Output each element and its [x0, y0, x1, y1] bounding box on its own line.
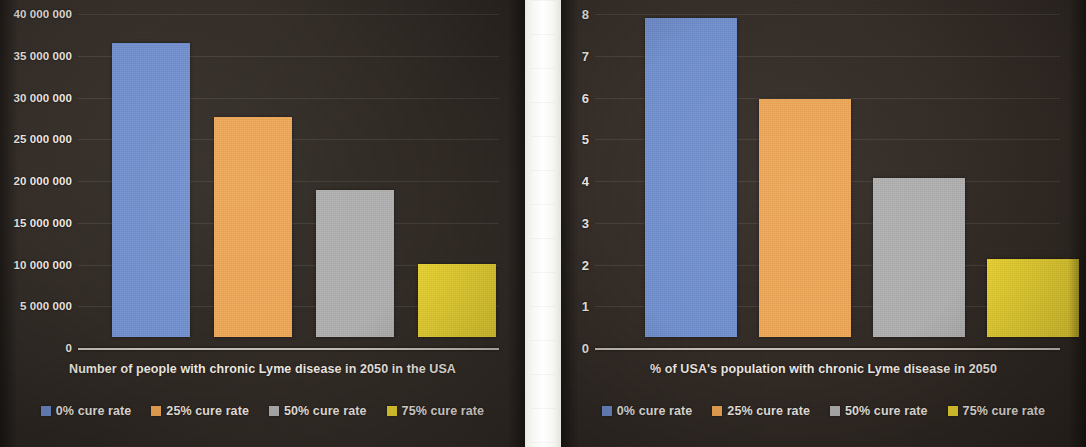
scanned-page: 05 000 00010 000 00015 000 00020 000 000…: [0, 0, 1086, 447]
bar-texture: [873, 178, 965, 337]
y-axis-tick-label: 0: [66, 342, 73, 354]
legend-item: 75% cure rate: [948, 404, 1046, 418]
y-axis-tick-label: 20 000 000: [13, 175, 72, 187]
bar-texture: [418, 264, 496, 337]
y-axis-tick-label: 35 000 000: [13, 50, 72, 62]
bar-group-percent: [595, 0, 1060, 351]
bar-group-people: [78, 0, 499, 351]
bar-texture: [316, 190, 394, 337]
y-axis-tick-label: 10 000 000: [13, 259, 72, 271]
y-axis-tick-label: 30 000 000: [13, 92, 72, 104]
legend-item: 25% cure rate: [712, 404, 810, 418]
y-axis-tick-label: 0: [582, 341, 589, 356]
bar-texture: [759, 99, 851, 337]
y-axis-labels-percent: 012345678: [561, 0, 589, 351]
legend-label: 0% cure rate: [617, 404, 693, 418]
y-axis-tick-label: 40 000 000: [13, 8, 72, 20]
y-axis-tick-label: 2: [582, 257, 589, 272]
plot-area-people: 05 000 00010 000 00015 000 00020 000 000…: [0, 0, 525, 351]
legend-label: 50% cure rate: [284, 404, 367, 418]
legend-item: 50% cure rate: [830, 404, 928, 418]
chart-panel-percent: 012345678 % of USA's population with chr…: [561, 0, 1086, 447]
legend-item: 0% cure rate: [602, 404, 693, 418]
legend-item: 75% cure rate: [387, 404, 485, 418]
plot-area-percent: 012345678: [561, 0, 1086, 351]
bar-25-cure-rate: [759, 99, 851, 337]
chart-caption-people: Number of people with chronic Lyme disea…: [0, 362, 525, 376]
legend-label: 0% cure rate: [56, 404, 132, 418]
legend-item: 50% cure rate: [269, 404, 367, 418]
legend-people: 0% cure rate25% cure rate50% cure rate75…: [0, 404, 525, 418]
y-axis-labels-people: 05 000 00010 000 00015 000 00020 000 000…: [0, 0, 72, 351]
bar-texture: [112, 43, 190, 337]
y-axis-tick-label: 7: [582, 48, 589, 63]
legend-swatch-icon: [387, 406, 397, 416]
legend-label: 25% cure rate: [727, 404, 810, 418]
legend-swatch-icon: [151, 406, 161, 416]
y-axis-tick-label: 25 000 000: [13, 133, 72, 145]
legend-item: 0% cure rate: [41, 404, 132, 418]
y-axis-tick-label: 15 000 000: [13, 217, 72, 229]
legend-swatch-icon: [830, 406, 840, 416]
legend-swatch-icon: [948, 406, 958, 416]
bar-0-cure-rate: [645, 18, 737, 337]
bar-25-cure-rate: [214, 117, 292, 337]
bar-texture: [214, 117, 292, 337]
legend-percent: 0% cure rate25% cure rate50% cure rate75…: [561, 404, 1086, 418]
legend-label: 75% cure rate: [963, 404, 1046, 418]
chart-caption-percent: % of USA's population with chronic Lyme …: [561, 362, 1086, 376]
y-axis-tick-label: 5 000 000: [20, 300, 72, 312]
y-axis-tick-label: 3: [582, 215, 589, 230]
bar-50-cure-rate: [316, 190, 394, 337]
bar-75-cure-rate: [987, 259, 1079, 337]
bar-50-cure-rate: [873, 178, 965, 337]
chart-panel-people: 05 000 00010 000 00015 000 00020 000 000…: [0, 0, 525, 447]
legend-item: 25% cure rate: [151, 404, 249, 418]
legend-label: 25% cure rate: [166, 404, 249, 418]
bar-0-cure-rate: [112, 43, 190, 337]
legend-label: 50% cure rate: [845, 404, 928, 418]
legend-swatch-icon: [602, 406, 612, 416]
legend-swatch-icon: [41, 406, 51, 416]
legend-swatch-icon: [712, 406, 722, 416]
y-axis-tick-label: 4: [582, 174, 589, 189]
bar-texture: [645, 18, 737, 337]
y-axis-tick-label: 8: [582, 7, 589, 22]
y-axis-tick-label: 6: [582, 90, 589, 105]
legend-swatch-icon: [269, 406, 279, 416]
bar-75-cure-rate: [418, 264, 496, 337]
bar-texture: [987, 259, 1079, 337]
y-axis-tick-label: 1: [582, 299, 589, 314]
y-axis-tick-label: 5: [582, 132, 589, 147]
legend-label: 75% cure rate: [402, 404, 485, 418]
page-gutter: [525, 0, 561, 447]
